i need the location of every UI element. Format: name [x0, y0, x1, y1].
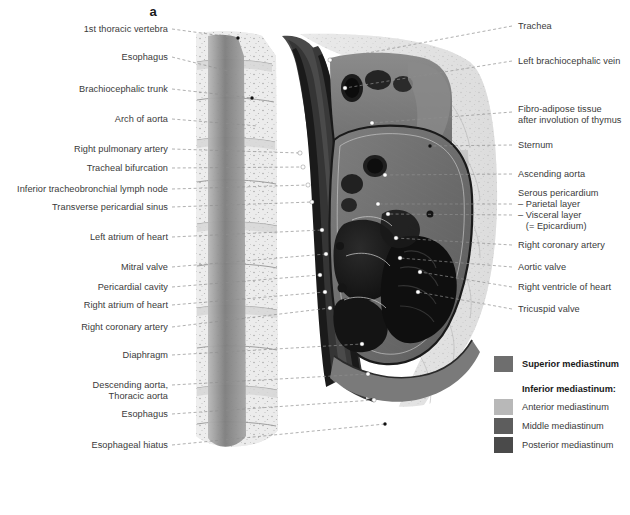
label-right-4: Sternum — [518, 140, 553, 151]
legend-swatch-superior — [494, 356, 513, 372]
legend-row-0: Anterior mediastinum — [494, 399, 630, 415]
vertebral-column — [196, 31, 278, 447]
label-left-13: Diaphragm — [123, 350, 168, 361]
label-right-6: Serous pericardium — [518, 188, 599, 199]
legend-heading-inferior: Inferior mediastinum: — [522, 384, 630, 394]
label-left-10: Pericardial cavity — [98, 282, 168, 293]
label-left-4: Arch of aorta — [115, 114, 168, 125]
legend-row-1: Middle mediastinum — [494, 418, 630, 434]
label-left-15: Thoracic aorta — [109, 391, 168, 402]
label-left-2: Brachiocephalic trunk — [79, 84, 168, 95]
label-right-2: Fibro-adipose tissue — [518, 104, 602, 115]
label-right-7: – Parietal layer — [518, 199, 580, 210]
label-right-11: Aortic valve — [518, 262, 566, 273]
legend-swatch-0 — [494, 399, 513, 415]
label-left-3: Right pulmonary artery — [74, 144, 168, 155]
label-right-9: (= Epicardium) — [518, 221, 587, 232]
label-left-8: Left atrium of heart — [90, 232, 168, 243]
label-left-0: 1st thoracic vertebra — [84, 24, 168, 35]
label-right-3: after involution of thymus — [518, 115, 621, 126]
legend: Superior mediastinum Inferior mediastinu… — [494, 356, 630, 456]
label-left-9: Mitral valve — [121, 262, 168, 273]
label-right-8: – Visceral layer — [518, 210, 581, 221]
label-right-10: Right coronary artery — [518, 240, 605, 251]
figure-mediastinum-sagittal: a — [0, 0, 630, 515]
legend-swatch-2 — [494, 437, 513, 453]
label-left-16: Esophagus — [122, 409, 168, 420]
legend-row-superior: Superior mediastinum — [494, 356, 630, 372]
label-right-12: Right ventricle of heart — [518, 282, 611, 293]
label-left-12: Right coronary artery — [81, 322, 168, 333]
legend-label-0: Anterior mediastinum — [522, 399, 609, 415]
legend-label-1: Middle mediastinum — [522, 418, 604, 434]
label-left-6: Inferior tracheobronchial lymph node — [17, 184, 168, 195]
legend-inferior-items: Anterior mediastinumMiddle mediastinumPo… — [494, 399, 630, 453]
label-left-17: Esophageal hiatus — [92, 440, 168, 451]
legend-label-superior: Superior mediastinum — [522, 356, 619, 372]
legend-swatch-1 — [494, 418, 513, 434]
label-right-5: Ascending aorta — [518, 169, 585, 180]
label-left-14: Descending aorta, — [93, 380, 168, 391]
label-left-7: Transverse pericardial sinus — [52, 202, 168, 213]
label-left-5: Tracheal bifurcation — [87, 163, 168, 174]
label-right-13: Tricuspid valve — [518, 304, 580, 315]
legend-row-2: Posterior mediastinum — [494, 437, 630, 453]
label-right-1: Left brachiocephalic vein — [518, 56, 620, 67]
label-left-1: Esophagus — [122, 52, 168, 63]
label-left-11: Right atrium of heart — [84, 300, 168, 311]
legend-label-2: Posterior mediastinum — [522, 437, 613, 453]
label-right-0: Trachea — [518, 21, 552, 32]
